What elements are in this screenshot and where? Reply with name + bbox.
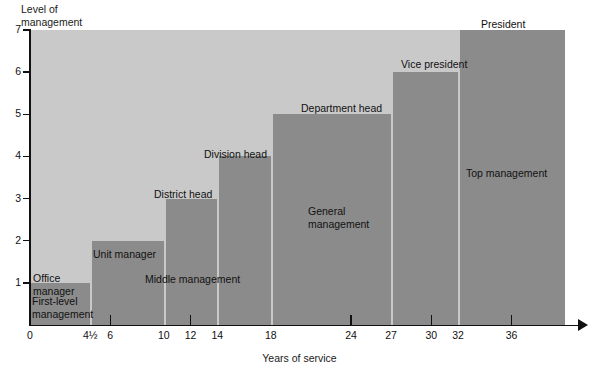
x-axis-tick — [431, 315, 433, 325]
x-axis-tick-label: 27 — [385, 330, 397, 341]
y-axis-tick-label: 5 — [12, 108, 21, 119]
x-axis-tick — [350, 315, 352, 325]
y-axis-tick — [23, 240, 31, 242]
zone-label: Middle management — [145, 273, 240, 286]
y-axis-tick-label: 3 — [12, 193, 21, 204]
x-axis-arrow-icon — [578, 319, 588, 331]
y-axis-tick — [23, 71, 31, 73]
bar-label: Vice president — [401, 58, 467, 71]
zone-label: Top management — [466, 167, 547, 180]
bar-label: District head — [154, 188, 212, 201]
x-axis-tick-label: 0 — [27, 330, 33, 341]
x-axis-tick-label: 36 — [506, 330, 518, 341]
bar — [164, 199, 218, 325]
bar-label: Division head — [204, 148, 267, 161]
x-axis-tick-label: 10 — [158, 330, 170, 341]
bar-label: Office manager — [33, 272, 74, 297]
y-axis-tick — [23, 282, 31, 284]
plot-area: First-level managementMiddle managementG… — [30, 30, 565, 325]
x-axis-tick-label: 24 — [345, 330, 357, 341]
bar-label: President — [481, 18, 525, 31]
y-axis-tick — [23, 156, 31, 158]
bar-label: Department head — [301, 102, 382, 115]
x-axis-tick-label: 14 — [211, 330, 223, 341]
y-axis-tick — [23, 29, 31, 31]
x-axis-tick-label: 30 — [425, 330, 437, 341]
y-axis-tick-label: 1 — [12, 277, 21, 288]
x-axis-tick-label: 32 — [452, 330, 464, 341]
bar — [391, 72, 458, 325]
y-axis-tick-label: 4 — [12, 150, 21, 161]
y-axis-title: Level of management — [21, 3, 82, 28]
bar-label: Unit manager — [93, 248, 156, 261]
y-axis-tick-label: 6 — [12, 66, 21, 77]
x-axis-tick — [511, 315, 513, 325]
y-axis-tick-label: 2 — [12, 235, 21, 246]
y-axis-tick-label: 7 — [12, 24, 21, 35]
y-axis-tick — [23, 198, 31, 200]
x-axis-line — [29, 325, 580, 327]
bar-chart: Level of management First-level manageme… — [0, 0, 599, 374]
x-axis-tick-label: 18 — [265, 330, 277, 341]
x-axis-tick — [110, 315, 112, 325]
x-axis-tick-label: 6 — [107, 330, 113, 341]
x-axis-tick — [190, 315, 192, 325]
x-axis-tick-label: 4½ — [83, 330, 98, 341]
bar — [217, 156, 271, 325]
zone-label: General management — [308, 205, 369, 230]
x-axis-tick-label: 12 — [185, 330, 197, 341]
x-axis-title: Years of service — [0, 352, 599, 364]
y-axis-tick — [23, 114, 31, 116]
zone-label: First-level management — [32, 295, 93, 320]
